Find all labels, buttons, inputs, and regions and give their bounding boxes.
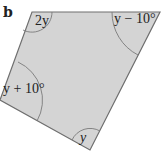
- part-label: b: [3, 4, 13, 20]
- angle-label-top-left: 2y: [35, 14, 49, 28]
- angle-label-bottom: y: [80, 131, 86, 145]
- angle-label-top-right: y − 10°: [114, 12, 156, 26]
- angle-label-left: y + 10°: [3, 82, 45, 96]
